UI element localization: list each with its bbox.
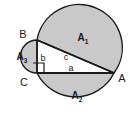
vertex-label-B: B (19, 28, 26, 40)
geometry-canvas: B C A b c a A1 A2 A3 (0, 0, 130, 125)
side-label-b: b (40, 53, 45, 63)
large-circle-group (37, 5, 122, 97)
geometry-figure: B C A b c a A1 A2 A3 (0, 0, 130, 125)
area-label-A3-base: A (17, 51, 24, 62)
vertex-label-A: A (118, 72, 126, 84)
vertex-label-C: C (20, 76, 28, 88)
side-label-c: c (64, 52, 69, 62)
side-label-a: a (68, 63, 73, 73)
area-label-A2-base: A (72, 90, 79, 101)
area-label-A1-base: A (78, 32, 85, 43)
area-label-A1-subscript: 1 (85, 38, 89, 45)
area-label-A2-subscript: 2 (79, 96, 83, 103)
area-label-A3-subscript: 3 (24, 57, 28, 64)
